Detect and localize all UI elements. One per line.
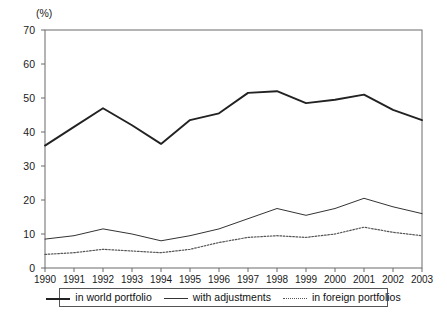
legend-label: in foreign portfolios: [312, 292, 401, 303]
y-axis-tick-label: 40: [9, 127, 35, 137]
legend-swatch-icon: [283, 295, 307, 301]
legend-item-1: with adjustments: [158, 292, 277, 303]
chart-plot-area: [0, 0, 447, 319]
x-axis-tick-label: 2003: [402, 274, 442, 285]
legend-swatch-icon: [46, 295, 70, 301]
legend-label: with adjustments: [193, 292, 271, 303]
y-axis-tick-label: 20: [9, 195, 35, 205]
y-axis-tick-label: 50: [9, 93, 35, 103]
chart-figure: (%) 010203040506070 19901991199219931994…: [0, 0, 447, 319]
y-axis-tick-label: 0: [9, 263, 35, 273]
legend-item-2: in foreign portfolios: [277, 292, 407, 303]
legend-label: in world portfolio: [75, 292, 151, 303]
chart-legend: in world portfoliowith adjustmentsin for…: [59, 288, 388, 307]
legend-item-0: in world portfolio: [40, 292, 157, 303]
y-axis-tick-label: 60: [9, 59, 35, 69]
y-axis-tick-label: 30: [9, 161, 35, 171]
y-axis-tick-label: 10: [9, 229, 35, 239]
legend-swatch-icon: [164, 295, 188, 301]
y-axis-tick-label: 70: [9, 25, 35, 35]
plot-frame: [45, 30, 422, 268]
